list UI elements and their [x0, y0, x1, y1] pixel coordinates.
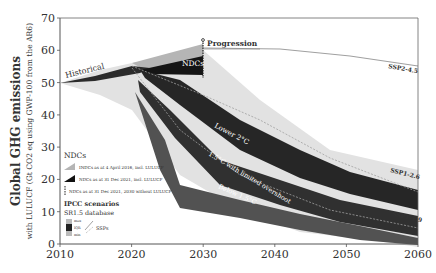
x-tick-2030: 2030 [189, 248, 217, 261]
legend-ndc-label: NDCs as at 31 Dec 2021, incl. LULUCF [79, 177, 162, 182]
legend-max-label: max [74, 219, 81, 223]
ndc-marker-dot [202, 39, 205, 42]
legend-ndcs-heading: NDCs [64, 151, 86, 160]
x-tick-2020: 2020 [118, 248, 146, 261]
y-tick-50: 50 [41, 77, 55, 90]
legend-min-label: min [74, 233, 81, 237]
legend-iqr-swatch [66, 224, 72, 231]
x-tick-2060: 2060 [404, 248, 432, 261]
legend-max-swatch [66, 219, 72, 224]
emissions-chart: 0 10 20 30 40 50 60 70 2010 2020 2030 20… [0, 0, 436, 273]
legend-ssps-label: SSPs [96, 225, 109, 231]
legend-indc-label: INDCs as at 4 April 2016, incl. LULUCF [79, 165, 164, 170]
legend-ndc-without-lulucf-label: NDCs as at 31 Dec 2021, 2030 without LUL… [69, 189, 172, 194]
y-tick-10: 10 [41, 206, 55, 219]
legend-ndc-swatch [64, 175, 75, 182]
y-axis-subtitle: with LULUCF (Gt CO2 eq using GWP-100 fro… [25, 23, 34, 239]
ssp2-45-label: SSP2-4.5 [388, 62, 419, 74]
legend-ssp-line-solid [85, 221, 93, 230]
legend-iqr-label: IQR [74, 226, 81, 230]
y-tick-20: 20 [41, 173, 55, 186]
legend-ipcc-heading: IPCC scenarios [64, 200, 119, 208]
y-tick-30: 30 [41, 141, 55, 154]
x-tick-2010: 2010 [46, 248, 74, 261]
y-tick-40: 40 [41, 109, 55, 122]
legend-min-swatch [66, 231, 72, 236]
ndcs-label: NDCs [182, 59, 204, 68]
legend-ipcc-sub: SR1.5 database [64, 209, 114, 216]
x-tick-2050: 2050 [332, 248, 360, 261]
y-tick-70: 70 [41, 12, 55, 25]
y-axis-title: Global GHG emissions [9, 56, 23, 206]
progression-label: Progression [207, 39, 258, 48]
legend: NDCs INDCs as at 4 April 2016, incl. LUL… [64, 151, 172, 237]
ssp2-45-line [203, 48, 418, 66]
y-tick-60: 60 [41, 44, 55, 57]
legend-indc-swatch [64, 163, 75, 170]
x-tick-2040: 2040 [261, 248, 289, 261]
